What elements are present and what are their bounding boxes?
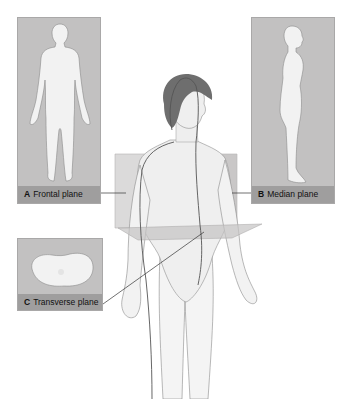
transverse-section-icon — [18, 239, 103, 296]
anatomy-figure: AFrontal plane BMedian plane CTransverse… — [0, 0, 346, 399]
panel-a-letter: A — [24, 189, 30, 199]
panel-a-label: AFrontal plane — [18, 186, 100, 203]
panel-transverse-plane: CTransverse plane — [17, 238, 103, 311]
panel-c-letter: C — [24, 297, 30, 307]
median-silhouette-icon — [252, 18, 335, 188]
panel-b-text: Median plane — [267, 189, 318, 199]
panel-a-text: Frontal plane — [33, 189, 83, 199]
panel-c-text: Transverse plane — [33, 297, 98, 307]
panel-frontal-plane: AFrontal plane — [17, 17, 101, 204]
panel-b-label: BMedian plane — [252, 186, 334, 203]
panel-c-label: CTransverse plane — [18, 294, 102, 310]
frontal-silhouette-icon — [18, 18, 101, 188]
panel-b-letter: B — [258, 189, 264, 199]
torso — [137, 140, 231, 302]
panel-median-plane: BMedian plane — [251, 17, 335, 204]
